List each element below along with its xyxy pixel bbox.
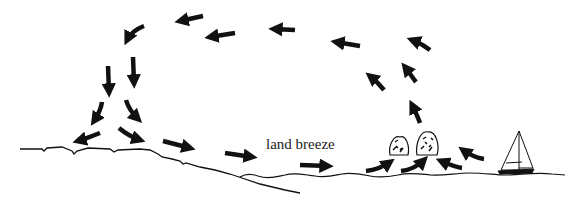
diagram-drawing: [0, 0, 577, 207]
land-breeze-label: land breeze: [266, 136, 335, 153]
sailboat-icon: [498, 131, 534, 174]
land-surface: [20, 147, 300, 193]
land-breeze-diagram: land breeze: [0, 0, 577, 207]
rock-icon: [390, 137, 409, 155]
rock-icon: [417, 132, 438, 155]
